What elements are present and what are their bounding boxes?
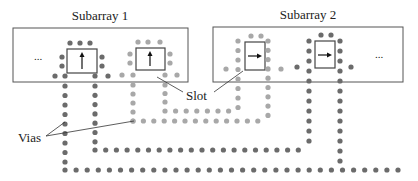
via-dot xyxy=(235,95,240,100)
via-dot xyxy=(167,147,172,152)
via-dot xyxy=(224,118,229,123)
via-dot xyxy=(77,40,82,45)
via-dot xyxy=(284,167,289,172)
via-dot xyxy=(235,76,240,81)
slot-leader-left xyxy=(157,77,183,92)
via-dot xyxy=(92,147,97,152)
ellipsis-left: ... xyxy=(34,50,43,62)
via-dot xyxy=(235,105,240,110)
via-dot xyxy=(96,167,101,172)
via-dot xyxy=(92,111,97,116)
via-dot xyxy=(135,39,140,44)
via-dot xyxy=(52,73,57,78)
via-dot xyxy=(62,140,67,145)
via-dot xyxy=(62,112,67,117)
via-dot xyxy=(296,167,301,172)
via-dot xyxy=(223,66,228,71)
via-dot xyxy=(306,88,311,93)
via-dot xyxy=(189,147,194,152)
vias-leader-2 xyxy=(46,121,134,136)
via-dot xyxy=(265,38,270,43)
via-dot xyxy=(130,72,135,77)
via-dot xyxy=(92,139,97,144)
via-dot xyxy=(146,147,151,152)
via-dot xyxy=(328,32,333,37)
via-dot xyxy=(240,167,245,172)
via-dot xyxy=(62,102,67,107)
via-dot xyxy=(207,167,212,172)
via-dot xyxy=(151,118,156,123)
via-dot xyxy=(114,147,119,152)
via-dot xyxy=(162,82,167,87)
via-dot xyxy=(337,68,342,73)
via-dot xyxy=(253,147,258,152)
via-dot xyxy=(329,167,334,172)
via-dot xyxy=(306,38,311,43)
via-dot xyxy=(235,38,240,43)
via-dot xyxy=(74,167,79,172)
via-dot xyxy=(265,76,270,81)
via-dot xyxy=(62,167,67,172)
via-dot xyxy=(337,78,342,83)
via-dot xyxy=(306,108,311,113)
via-dot xyxy=(162,118,167,123)
via-dot xyxy=(337,38,342,43)
via-dot xyxy=(62,150,67,155)
via-dot xyxy=(307,167,312,172)
via-dot xyxy=(62,131,67,136)
via-dot xyxy=(232,147,237,152)
via-dot xyxy=(226,108,231,113)
via-dot xyxy=(118,167,123,172)
subarray-1-title: Subarray 1 xyxy=(72,8,129,23)
via-dot xyxy=(125,147,130,152)
via-dot xyxy=(278,66,283,71)
via-dot xyxy=(362,167,367,172)
via-dot xyxy=(337,48,342,53)
via-dot xyxy=(185,167,190,172)
via-dot xyxy=(162,91,167,96)
via-dot xyxy=(67,40,72,45)
ellipsis-right: ... xyxy=(375,48,384,60)
via-dot xyxy=(62,93,67,98)
via-dot xyxy=(306,98,311,103)
via-dot xyxy=(151,167,156,172)
via-dot xyxy=(182,118,187,123)
via-dot xyxy=(130,100,135,105)
via-dot xyxy=(203,118,208,123)
via-dot xyxy=(340,167,345,172)
via-dot xyxy=(129,167,134,172)
slot-via-diagram: Subarray 1 Subarray 2 ... ... Slot Vias xyxy=(0,0,418,181)
via-dot xyxy=(395,167,400,172)
via-dot xyxy=(173,167,178,172)
via-dot xyxy=(373,167,378,172)
slot-1 xyxy=(67,49,97,73)
via-dot xyxy=(172,118,177,123)
via-dot xyxy=(274,147,279,152)
via-dot xyxy=(140,167,145,172)
via-dot xyxy=(337,88,342,93)
via-dot xyxy=(296,147,301,152)
via-dot xyxy=(105,73,110,78)
via-dot xyxy=(127,51,132,56)
via-dot xyxy=(265,57,270,62)
dark-vias xyxy=(52,32,400,172)
via-dot xyxy=(348,64,353,69)
via-dot xyxy=(337,148,342,153)
via-dot xyxy=(103,147,108,152)
via-dot xyxy=(59,63,64,68)
via-dot xyxy=(157,147,162,152)
via-dot xyxy=(306,118,311,123)
via-dot xyxy=(258,33,263,38)
via-dot xyxy=(337,158,342,163)
via-dot xyxy=(99,63,104,68)
via-dot xyxy=(199,147,204,152)
via-dot xyxy=(306,138,311,143)
via-dot xyxy=(193,118,198,123)
via-dot xyxy=(235,57,240,62)
via-dot xyxy=(141,118,146,123)
via-dot xyxy=(162,99,167,104)
via-dot xyxy=(167,51,172,56)
via-dot xyxy=(62,73,67,78)
vias-label: Vias xyxy=(18,130,41,145)
via-dot xyxy=(92,73,97,78)
